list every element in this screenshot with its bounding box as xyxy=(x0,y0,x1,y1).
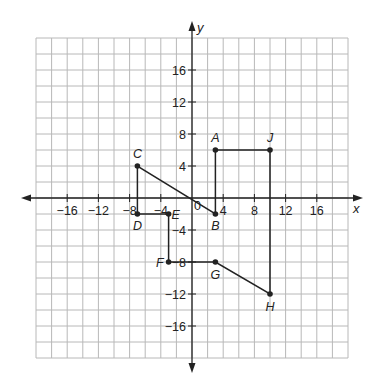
y-tick-label: 16 xyxy=(172,64,186,78)
figure-path xyxy=(137,150,270,294)
x-tick-label: 4 xyxy=(220,204,227,218)
x-tick-label: 16 xyxy=(310,204,324,218)
point-label-d: D xyxy=(133,219,142,233)
polygon-outline xyxy=(137,150,270,294)
point-c xyxy=(135,163,141,169)
x-tick-label: −16 xyxy=(57,204,78,218)
point-j xyxy=(267,147,273,153)
axes: x y 0 xyxy=(21,20,363,373)
point-label-g: G xyxy=(211,268,221,282)
y-tick-label: −12 xyxy=(165,288,186,302)
point-d xyxy=(135,211,141,217)
x-tick-label: −8 xyxy=(122,204,136,218)
point-label-e: E xyxy=(172,208,181,222)
y-tick-label: 4 xyxy=(179,160,186,174)
point-label-a: A xyxy=(210,131,219,145)
point-label-h: H xyxy=(265,300,275,314)
point-b xyxy=(213,211,219,217)
x-tick-label: −4 xyxy=(154,204,168,218)
point-h xyxy=(267,291,273,297)
y-axis-up-arrow-icon xyxy=(189,21,196,31)
point-label-c: C xyxy=(133,147,143,161)
y-tick-label: 8 xyxy=(179,128,186,142)
x-axis-left-arrow-icon xyxy=(21,195,31,202)
x-tick-label: 12 xyxy=(279,204,293,218)
point-a xyxy=(213,147,219,153)
x-tick-label: −12 xyxy=(88,204,109,218)
point-f xyxy=(166,259,172,265)
x-tick-label: 8 xyxy=(251,204,258,218)
point-label-b: B xyxy=(211,219,219,233)
y-tick-label: −4 xyxy=(172,224,186,238)
point-label-f: F xyxy=(156,256,165,270)
y-axis-down-arrow-icon xyxy=(189,363,196,373)
point-e xyxy=(166,211,172,217)
y-tick-label: 12 xyxy=(172,96,186,110)
point-g xyxy=(213,259,219,265)
x-axis-label: x xyxy=(352,201,360,216)
y-axis-label: y xyxy=(196,20,205,35)
point-label-j: J xyxy=(266,131,274,145)
y-tick-label: −16 xyxy=(165,320,186,334)
coordinate-plane: x y 0 −16−12−8−4481216161284−4−8−12−16 A… xyxy=(0,0,378,389)
